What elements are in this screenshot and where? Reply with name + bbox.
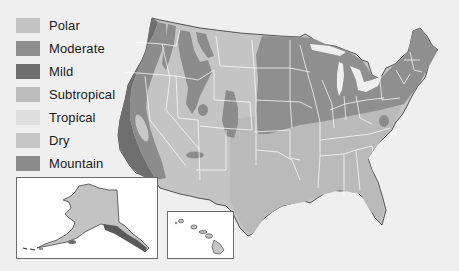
mountain-arizona [186,152,204,159]
hawaii-island-big [212,240,224,254]
legend-item-subtropical: Subtropical [16,83,115,106]
swatch-dry [16,133,40,148]
hawaii-map [168,212,233,258]
hawaii-island-molokai [199,231,207,234]
alaska-aleutian-islands [23,248,43,250]
alaska-inset [16,177,158,259]
hawaii-island-kauai [179,219,184,223]
alaska-island [68,240,76,244]
legend-item-mild: Mild [16,60,115,83]
legend-label: Dry [49,133,70,148]
mountain-utah [198,104,208,116]
swatch-subtropical [16,87,40,102]
hawaii-island-niihau [175,222,177,224]
legend-item-polar: Polar [16,14,115,37]
legend-label: Mountain [49,156,103,171]
legend-label: Polar [49,18,80,33]
legend-item-dry: Dry [16,129,115,152]
legend-item-moderate: Moderate [16,37,115,60]
legend-label: Tropical [49,110,96,125]
legend-label: Subtropical [49,87,115,102]
swatch-tropical [16,110,40,125]
alaska-map [17,178,157,258]
mountain-appalachian [379,115,389,127]
swatch-mountain [16,156,40,171]
swatch-polar [16,18,40,33]
legend-item-tropical: Tropical [16,106,115,129]
legend-label: Mild [49,64,73,79]
hawaii-inset [167,211,234,259]
swatch-mild [16,64,40,79]
legend-label: Moderate [49,41,105,56]
legend: Polar Moderate Mild Subtropical Tropical… [16,14,115,175]
legend-item-mountain: Mountain [16,152,115,175]
hawaii-island-oahu [191,225,197,229]
hawaii-island-maui [206,234,213,238]
swatch-moderate [16,41,40,56]
